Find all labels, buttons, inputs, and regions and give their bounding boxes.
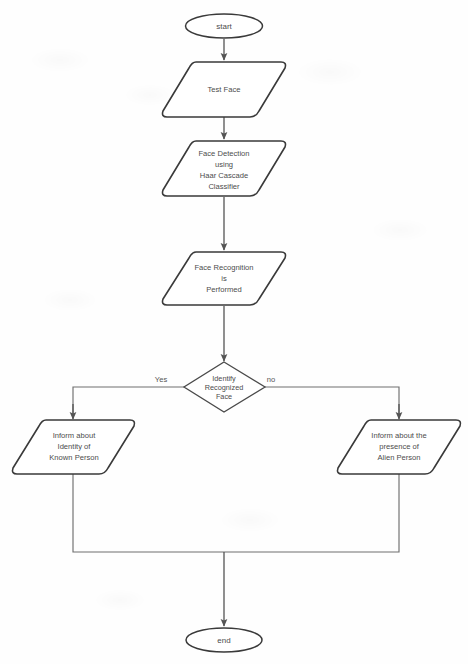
node-alien-person[interactable]: Inform about the presence of Alien Perso…	[338, 420, 461, 474]
edge-label-yes: Yes	[155, 375, 168, 384]
node-test-face[interactable]: Test Face	[163, 62, 286, 117]
alien-person-line-2: presence of	[379, 442, 420, 451]
edge-alien-to-merge	[224, 474, 399, 552]
face-detection-line-3: Haar Cascade	[200, 171, 249, 180]
edge-no-branch	[265, 387, 399, 418]
decision-line-3: Face	[216, 392, 232, 401]
node-start[interactable]: start	[186, 14, 263, 38]
face-recognition-line-2: is	[221, 274, 227, 283]
test-face-label: Test Face	[208, 85, 241, 94]
node-decision[interactable]: Identify Recognized Face	[184, 362, 265, 412]
node-known-person[interactable]: Inform about Identity of Known Person	[13, 420, 135, 474]
decision-line-2: Recognized	[205, 383, 244, 392]
node-face-detection[interactable]: Face Detection using Haar Cascade Classi…	[163, 141, 286, 196]
node-face-recognition[interactable]: Face Recognition is Performed	[163, 252, 286, 305]
alien-person-line-3: Alien Person	[377, 453, 420, 462]
alien-person-line-1: Inform about the	[371, 431, 426, 440]
flowchart-canvas: start Test Face Face Detection using Haa…	[0, 0, 468, 664]
known-person-line-3: Known Person	[49, 453, 98, 462]
face-detection-line-2: using	[215, 160, 233, 169]
start-label: start	[216, 22, 232, 31]
edge-known-to-merge	[73, 474, 224, 552]
known-person-line-2: Identity of	[58, 442, 92, 451]
decision-line-1: Identify	[212, 374, 236, 383]
face-recognition-line-3: Performed	[206, 285, 241, 294]
node-end[interactable]: end	[186, 628, 262, 652]
face-detection-line-4: Classifier	[208, 182, 240, 191]
end-label: end	[217, 636, 230, 645]
edge-label-no: no	[267, 375, 275, 384]
edge-yes-branch	[73, 387, 184, 418]
known-person-line-1: Inform about	[53, 431, 97, 440]
connector-group	[73, 39, 399, 626]
flowchart-svg: start Test Face Face Detection using Haa…	[0, 0, 468, 664]
face-detection-line-1: Face Detection	[198, 149, 249, 158]
face-recognition-line-1: Face Recognition	[194, 263, 253, 272]
